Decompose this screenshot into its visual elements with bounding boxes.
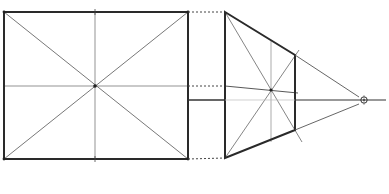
perspective-trapezoid xyxy=(225,12,302,158)
rect-corner-bl xyxy=(3,158,6,161)
projection-lines xyxy=(188,12,225,159)
trap-center-point xyxy=(269,88,272,91)
trap-diagonal-1 xyxy=(225,12,302,142)
vanishing-ray-bottom xyxy=(295,104,359,130)
vanishing-ray-top xyxy=(295,55,359,97)
perspective-construction-diagram xyxy=(0,0,389,194)
trap-diagonal-2 xyxy=(225,50,299,158)
horizon-and-vanishing-point xyxy=(225,55,386,130)
front-view-rectangle xyxy=(3,9,190,162)
rect-corner-tl xyxy=(3,11,6,14)
projection-bottom xyxy=(188,158,225,159)
trap-outline xyxy=(225,12,295,158)
trap-horizontal-midline xyxy=(225,86,298,93)
rect-center-point xyxy=(93,84,97,88)
